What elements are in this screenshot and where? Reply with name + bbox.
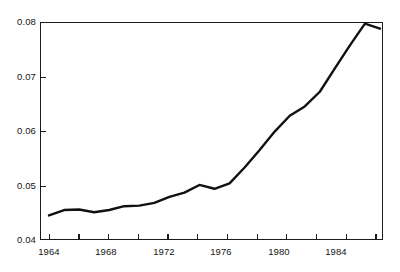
plot-area	[40, 22, 383, 240]
x-tick-label-1972: 1972	[146, 246, 182, 257]
x-tick-label-1984: 1984	[318, 246, 354, 257]
y-tick-label-0-04: 0.04	[2, 234, 36, 245]
x-tick-label-1976: 1976	[203, 246, 239, 257]
x-tick-label-1980: 1980	[261, 246, 297, 257]
y-tick-label-0-08: 0.08	[2, 16, 36, 27]
x-tick-label-1968: 1968	[88, 246, 124, 257]
y-tick-label-0-06: 0.06	[2, 125, 36, 136]
y-tick-label-0-07: 0.07	[2, 71, 36, 82]
x-tick-label-1964: 1964	[31, 246, 67, 257]
series-1-line	[49, 24, 380, 216]
y-tick-label-0-05: 0.05	[2, 180, 36, 191]
series-line-chart	[40, 22, 383, 240]
chart-figure: 0.08 0.07 0.06 0.05 0.04 1964 1968 1972 …	[0, 0, 400, 272]
